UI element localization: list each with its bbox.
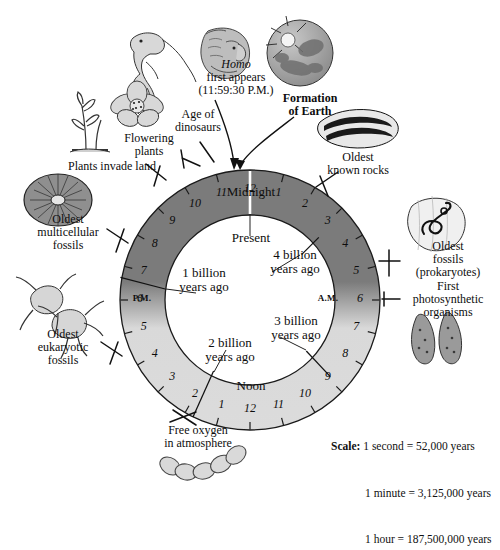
label-2-billion-years-ago: 2 billionyears ago (180, 336, 280, 364)
hour-number: 10 (293, 387, 317, 400)
callout-oldest-multicellular-fossils: Oldestmulticellularfossils (24, 213, 112, 252)
hour-number: 4 (333, 237, 357, 250)
scale-row-1: 1 minute = 3,125,000 years (331, 486, 492, 502)
hour-number: 2 (183, 387, 207, 400)
hour-number: 8 (143, 237, 167, 250)
hour-number: 1 (210, 398, 234, 411)
label-noon: Noon (210, 379, 292, 393)
homo-line-2: first appears (207, 70, 266, 84)
scale-heading: Scale: (331, 440, 360, 452)
hour-number: 1 (266, 186, 290, 199)
hour-number: 11 (210, 186, 234, 199)
hour-number: 7 (344, 320, 368, 333)
hour-number: 12 (238, 402, 262, 415)
hour-number: 10 (183, 197, 207, 210)
label-am: A.M. (313, 294, 343, 304)
hour-number: 2 (293, 197, 317, 210)
label-4-billion-years-ago: 4 billionyears ago (240, 248, 350, 276)
callout-oldest-fossils-prokaryotes: Oldestfossils(prokaryotes) (396, 240, 500, 279)
hour-number: 6 (348, 292, 372, 305)
top-arrowheads (230, 158, 245, 170)
hour-number: 9 (316, 370, 340, 383)
hour-number: 5 (344, 264, 368, 277)
label-present: Present (207, 231, 295, 245)
hour-number: 3 (160, 370, 184, 383)
hour-number: 7 (132, 264, 156, 277)
land-plant-illustration (70, 92, 110, 152)
callout-free-oxygen-in-atmosphere: Free oxygenin atmosphere (136, 424, 260, 450)
scale-row-2: 1 hour = 187,500,000 years (331, 532, 492, 548)
callout-plants-invade-land: Plants invade land (49, 160, 175, 173)
homo-genus-name: Homo (221, 57, 250, 71)
hour-number: 8 (333, 347, 357, 360)
scale-legend: Scale: 1 second = 52,000 years 1 minute … (331, 408, 492, 550)
label-1-billion-years-ago: 1 billionyears ago (156, 266, 252, 294)
scale-row-0: Scale: 1 second = 52,000 years (331, 439, 492, 455)
hour-number: 9 (160, 214, 184, 227)
hour-number: 12 (238, 182, 262, 195)
photosynthetic-bacteria-illustration (412, 312, 462, 364)
hour-number: 4 (143, 347, 167, 360)
callout-oldest-eukaryotic-fossils: Oldesteukaryoticfossils (20, 328, 106, 367)
hour-number: 11 (266, 398, 290, 411)
formation-arrow-line (241, 117, 294, 164)
callout-oldest-known-rocks: Oldestknown rocks (310, 151, 406, 177)
callout-formation-of-earth: Formationof Earth (262, 92, 358, 118)
callout-flowering-plants: Floweringplants (105, 132, 193, 158)
callout-first-photosynthetic-organisms: Firstphotosyntheticorganisms (398, 280, 498, 319)
hour-number: 3 (316, 214, 340, 227)
hour-number: 6 (128, 292, 152, 305)
hour-number: 5 (132, 320, 156, 333)
